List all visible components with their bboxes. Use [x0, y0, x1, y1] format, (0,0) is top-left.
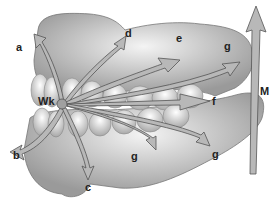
- label-e: e: [176, 33, 182, 44]
- origin-point: [57, 99, 67, 109]
- label-g-lower-mid: g: [131, 151, 138, 162]
- label-d: d: [125, 28, 132, 39]
- label-c: c: [85, 182, 91, 193]
- label-a: a: [16, 42, 22, 53]
- label-g-upper: g: [224, 41, 231, 52]
- label-Wk: Wk: [38, 96, 55, 107]
- label-g-lower-right: g: [212, 149, 219, 160]
- label-f: f: [212, 96, 216, 107]
- dental-vector-diagram: a b c d e f g g g M Wk: [0, 0, 280, 204]
- label-M: M: [260, 86, 269, 97]
- label-b: b: [13, 150, 20, 161]
